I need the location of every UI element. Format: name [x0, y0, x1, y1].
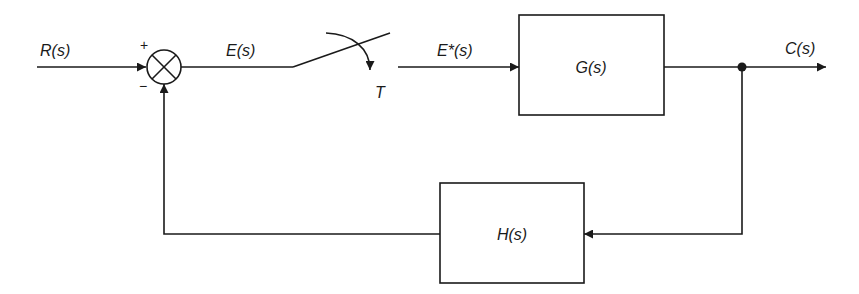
sampling-arrow-icon — [326, 33, 370, 70]
feedback-block-label: H(s) — [497, 226, 527, 243]
sampled-error-label: E*(s) — [437, 42, 473, 59]
error-label: E(s) — [226, 42, 255, 59]
switch-blade — [293, 33, 390, 67]
forward-block-label: G(s) — [575, 59, 606, 76]
block-diagram: R(s) + − E(s) T E*(s) G(s) C(s) H(s) — [0, 0, 859, 294]
forward-block: G(s) — [519, 15, 664, 115]
sampling-period-label: T — [375, 84, 386, 101]
error-signal: E(s) — [181, 42, 293, 67]
minus-sign: − — [139, 78, 147, 94]
feedback-to-junction-arrow — [164, 84, 440, 234]
plus-sign: + — [140, 37, 148, 53]
input-signal: R(s) — [37, 42, 146, 67]
sampled-error-signal: E*(s) — [398, 42, 519, 67]
output-signal: C(s) — [664, 40, 826, 72]
summing-junction: + − — [139, 37, 181, 94]
output-label: C(s) — [785, 40, 815, 57]
sampler-switch: T — [293, 33, 390, 101]
input-label: R(s) — [40, 42, 70, 59]
